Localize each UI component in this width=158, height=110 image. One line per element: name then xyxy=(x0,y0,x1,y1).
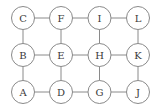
node-e: E xyxy=(50,44,73,67)
node-label: B xyxy=(19,50,26,61)
node-label: D xyxy=(57,87,65,98)
node-k: K xyxy=(127,44,150,67)
node-label: E xyxy=(57,50,64,61)
node-label: J xyxy=(135,87,140,98)
node-g: G xyxy=(88,81,111,104)
node-b: B xyxy=(12,44,35,67)
node-c: C xyxy=(12,7,35,30)
node-label: I xyxy=(98,13,102,24)
edges-layer xyxy=(23,18,138,92)
node-label: F xyxy=(58,13,65,24)
node-h: H xyxy=(88,44,111,67)
node-label: G xyxy=(96,87,104,98)
node-label: L xyxy=(135,13,142,24)
node-j: J xyxy=(127,81,150,104)
node-label: H xyxy=(95,50,104,61)
node-i: I xyxy=(88,7,111,30)
node-label: K xyxy=(134,50,142,61)
node-label: A xyxy=(18,87,27,98)
node-a: A xyxy=(12,81,35,104)
node-l: L xyxy=(127,7,150,30)
grid-graph-diagram: ABCDEFGHIJKL xyxy=(0,0,158,110)
node-label: C xyxy=(19,13,27,24)
node-f: F xyxy=(50,7,73,30)
node-d: D xyxy=(50,81,73,104)
